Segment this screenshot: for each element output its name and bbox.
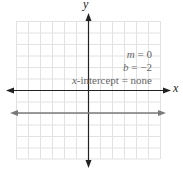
x-axis-left-arrow-icon bbox=[6, 88, 14, 94]
annotation-x-intercept: x-intercept = none bbox=[72, 74, 152, 86]
coordinate-plane bbox=[0, 0, 183, 174]
y-axis-down-arrow-icon bbox=[86, 160, 92, 168]
line-left-arrow-icon bbox=[10, 110, 18, 116]
y-axis-up-arrow-icon bbox=[86, 13, 92, 21]
y-axis-label: y bbox=[83, 0, 88, 12]
xint-eq: -intercept = none bbox=[77, 74, 152, 86]
x-axis-label: x bbox=[173, 81, 178, 96]
intercept-eq: = −2 bbox=[129, 61, 152, 73]
annotation-intercept: b = −2 bbox=[123, 61, 152, 73]
line-right-arrow-icon bbox=[158, 110, 166, 116]
slope-var: m bbox=[127, 48, 135, 60]
slope-eq: = 0 bbox=[135, 48, 152, 60]
x-axis-right-arrow-icon bbox=[163, 88, 171, 94]
annotation-slope: m = 0 bbox=[127, 48, 152, 60]
